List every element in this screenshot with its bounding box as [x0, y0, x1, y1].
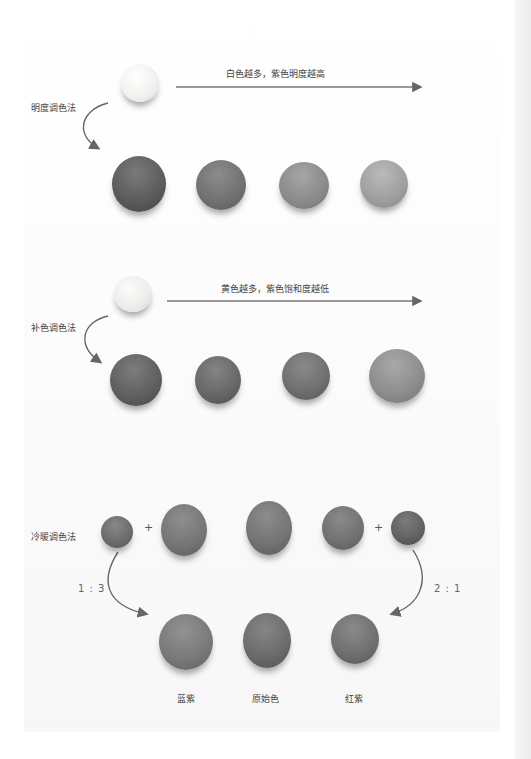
complement-curved-arrow — [85, 316, 108, 362]
value-ball-1 — [112, 156, 166, 212]
original-color-result — [243, 613, 291, 668]
purple-clay-ball-right — [322, 506, 364, 550]
plus-sign-right: + — [374, 521, 383, 534]
value-curved-arrow — [83, 103, 108, 148]
reddish-mix-arrow — [392, 550, 422, 614]
value-ball-3 — [279, 162, 329, 209]
reddish-purple-result — [331, 614, 379, 664]
red-clay-ball — [391, 511, 425, 545]
complement-ball-2 — [195, 356, 241, 404]
blue-clay-ball — [101, 516, 133, 548]
white-clay-ball — [121, 64, 159, 102]
bluish-ratio: 1 : 3 — [78, 583, 105, 594]
complement-ball-4 — [369, 349, 425, 403]
value-caption: 白色越多，紫色明度越高 — [226, 67, 325, 80]
value-ball-4 — [360, 160, 408, 208]
reddish-purple-label: 红紫 — [345, 692, 363, 705]
complement-method-title: 补色调色法 — [31, 321, 76, 334]
value-method-title: 明度调色法 — [31, 101, 76, 114]
value-ball-2 — [196, 160, 246, 210]
original-color-label: 原始色 — [252, 692, 279, 705]
original-purple-clay-ball — [246, 501, 292, 555]
complement-ball-3 — [282, 352, 330, 400]
bluish-purple-label: 蓝紫 — [177, 692, 195, 705]
bluish-mix-arrow — [108, 552, 146, 614]
complement-ball-1 — [110, 354, 162, 406]
complement-caption: 黄色越多，紫色饱和度越低 — [221, 282, 329, 295]
bluish-purple-result — [159, 614, 213, 670]
yellow-clay-ball — [114, 276, 152, 312]
temperature-method-title: 冷暖调色法 — [31, 530, 76, 543]
reddish-ratio: 2 : 1 — [434, 583, 461, 594]
plus-sign-left: + — [144, 521, 153, 534]
purple-clay-ball-left — [161, 504, 207, 556]
